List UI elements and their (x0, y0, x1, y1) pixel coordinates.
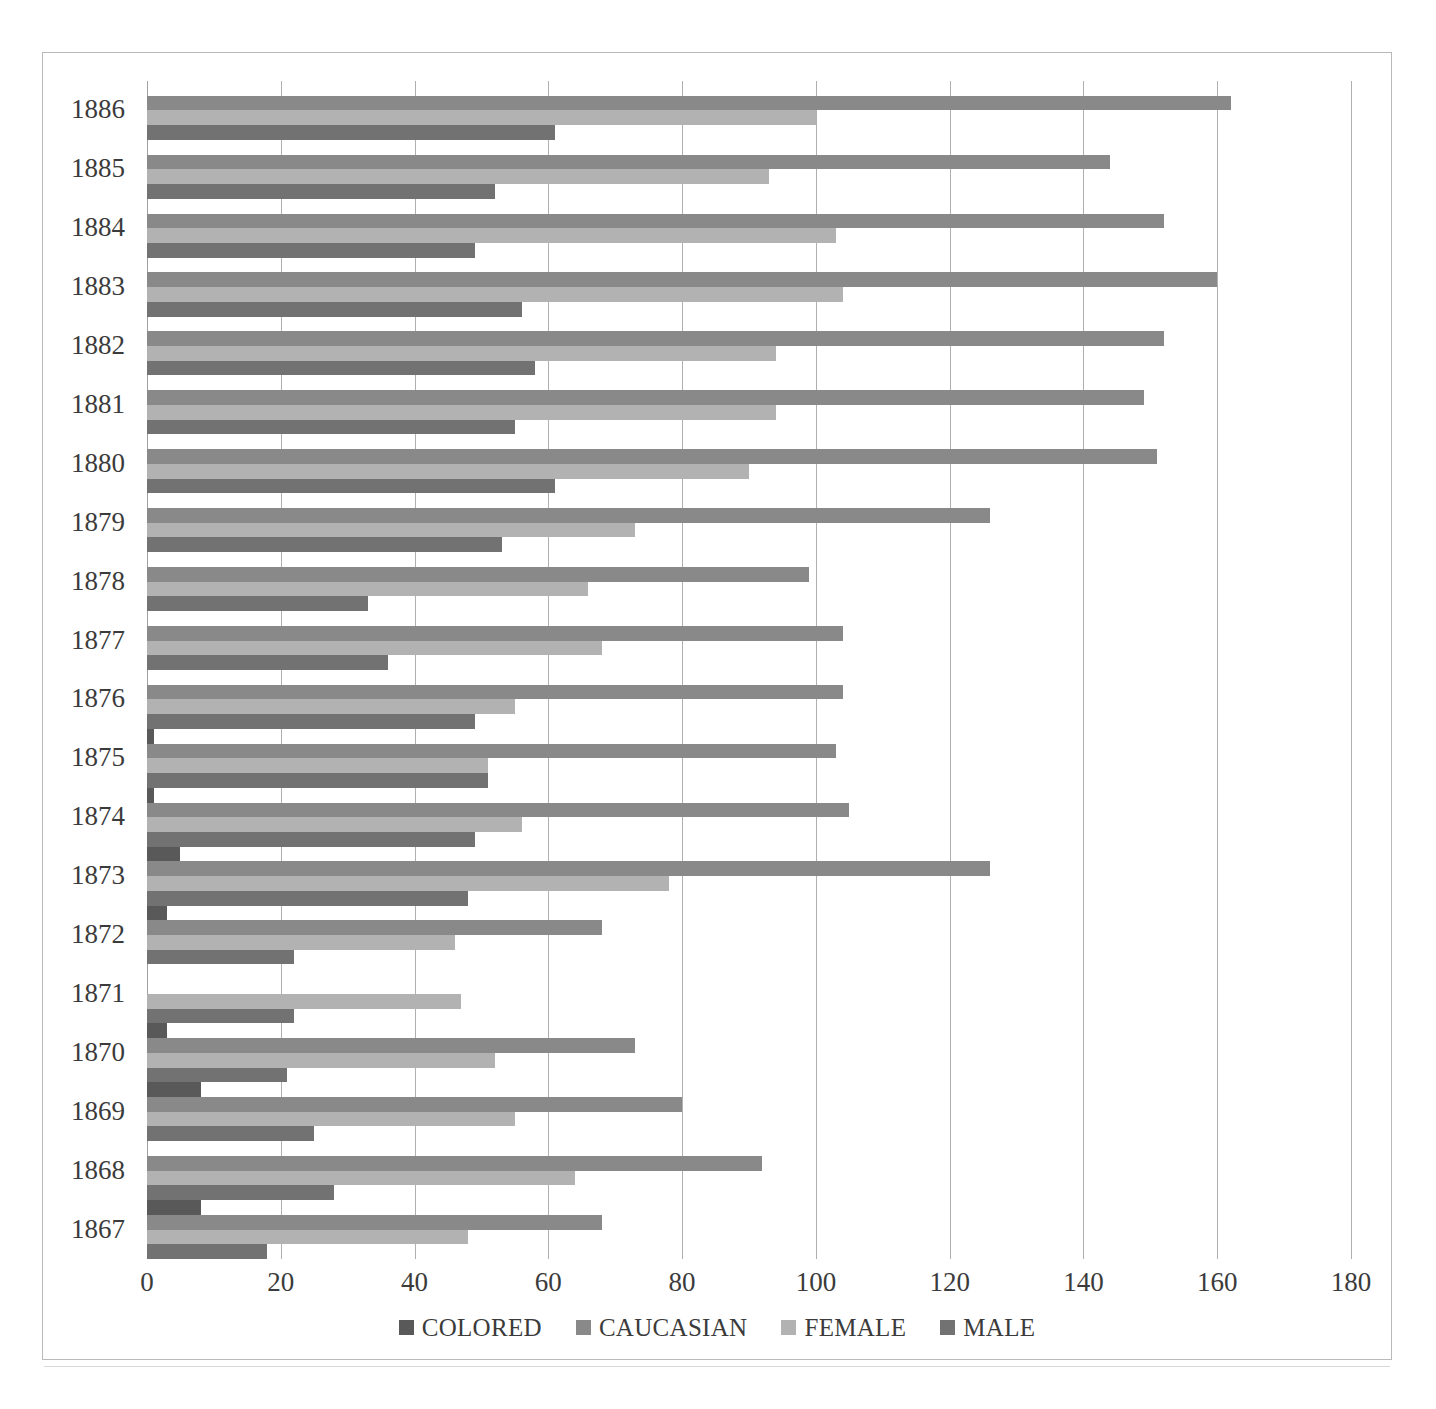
bar-caucasian-1879[interactable] (147, 508, 990, 523)
legend-label: COLORED (422, 1315, 542, 1340)
bar-female-1886[interactable] (147, 110, 816, 125)
bar-caucasian-1867[interactable] (147, 1215, 602, 1230)
bar-caucasian-1886[interactable] (147, 96, 1231, 111)
bar-row (147, 979, 1355, 994)
bar-row (147, 714, 1355, 729)
bar-row (147, 552, 1355, 567)
bar-male-1886[interactable] (147, 125, 555, 140)
bar-row (147, 965, 1355, 980)
bar-row (147, 331, 1355, 346)
bar-row (147, 169, 1355, 184)
bar-caucasian-1875[interactable] (147, 744, 836, 759)
bar-female-1876[interactable] (147, 699, 515, 714)
bar-caucasian-1877[interactable] (147, 626, 843, 641)
bar-row (147, 390, 1355, 405)
bar-caucasian-1880[interactable] (147, 449, 1157, 464)
bar-female-1878[interactable] (147, 582, 588, 597)
bar-male-1876[interactable] (147, 714, 475, 729)
bar-row (147, 685, 1355, 700)
bar-group-1868 (147, 1141, 1355, 1200)
bar-male-1882[interactable] (147, 361, 535, 376)
bar-female-1875[interactable] (147, 758, 488, 773)
bar-row (147, 729, 1355, 744)
bar-caucasian-1882[interactable] (147, 331, 1164, 346)
bar-female-1881[interactable] (147, 405, 776, 420)
bar-female-1883[interactable] (147, 287, 843, 302)
bar-row (147, 508, 1355, 523)
bar-caucasian-1885[interactable] (147, 155, 1110, 170)
bar-male-1872[interactable] (147, 950, 294, 965)
bar-caucasian-1869[interactable] (147, 1097, 682, 1112)
bar-row (147, 1068, 1355, 1083)
bar-female-1885[interactable] (147, 169, 769, 184)
bar-caucasian-1872[interactable] (147, 920, 602, 935)
bar-male-1870[interactable] (147, 1068, 287, 1083)
bar-caucasian-1868[interactable] (147, 1156, 762, 1171)
chart-legend: COLOREDCAUCASIANFEMALEMALE (43, 1315, 1391, 1340)
bar-group-1881 (147, 376, 1355, 435)
bar-male-1884[interactable] (147, 243, 475, 258)
bar-row (147, 96, 1355, 111)
bar-colored-1869[interactable] (147, 1082, 201, 1097)
bar-female-1869[interactable] (147, 1112, 515, 1127)
bar-group-1877 (147, 611, 1355, 670)
bar-male-1878[interactable] (147, 596, 368, 611)
bar-male-1885[interactable] (147, 184, 495, 199)
bar-female-1882[interactable] (147, 346, 776, 361)
bar-male-1880[interactable] (147, 479, 555, 494)
bar-male-1883[interactable] (147, 302, 522, 317)
bar-row (147, 199, 1355, 214)
bar-caucasian-1870[interactable] (147, 1038, 635, 1053)
bar-female-1873[interactable] (147, 876, 669, 891)
bar-male-1867[interactable] (147, 1244, 267, 1259)
bar-female-1880[interactable] (147, 464, 749, 479)
bar-row (147, 891, 1355, 906)
bar-row (147, 847, 1355, 862)
bar-caucasian-1884[interactable] (147, 214, 1164, 229)
bar-female-1872[interactable] (147, 935, 455, 950)
legend-item-colored[interactable]: COLORED (399, 1315, 542, 1340)
bar-colored-1870[interactable] (147, 1023, 167, 1038)
bar-male-1868[interactable] (147, 1185, 334, 1200)
bar-row (147, 523, 1355, 538)
bar-male-1873[interactable] (147, 891, 468, 906)
bar-male-1877[interactable] (147, 655, 388, 670)
bar-female-1867[interactable] (147, 1230, 468, 1245)
bar-female-1877[interactable] (147, 641, 602, 656)
bar-female-1868[interactable] (147, 1171, 575, 1186)
y-axis-label-1886: 1886 (71, 96, 125, 123)
bar-female-1879[interactable] (147, 523, 635, 538)
bar-row (147, 611, 1355, 626)
bar-female-1870[interactable] (147, 1053, 495, 1068)
bar-caucasian-1874[interactable] (147, 803, 849, 818)
bar-female-1884[interactable] (147, 228, 836, 243)
bar-row (147, 699, 1355, 714)
x-axis-tick-0: 0 (140, 1269, 154, 1296)
bar-male-1871[interactable] (147, 1009, 294, 1024)
bar-female-1871[interactable] (147, 994, 461, 1009)
bar-male-1869[interactable] (147, 1126, 314, 1141)
bar-colored-1875[interactable] (147, 729, 154, 744)
bar-female-1874[interactable] (147, 817, 522, 832)
bar-caucasian-1881[interactable] (147, 390, 1144, 405)
bar-caucasian-1873[interactable] (147, 861, 990, 876)
bar-male-1879[interactable] (147, 537, 502, 552)
bar-caucasian-1878[interactable] (147, 567, 809, 582)
bar-colored-1872[interactable] (147, 906, 167, 921)
bar-colored-1873[interactable] (147, 847, 180, 862)
bar-colored-1874[interactable] (147, 788, 154, 803)
legend-item-female[interactable]: FEMALE (781, 1315, 906, 1340)
bar-row (147, 81, 1355, 96)
bar-caucasian-1883[interactable] (147, 272, 1217, 287)
legend-item-caucasian[interactable]: CAUCASIAN (576, 1315, 748, 1340)
bar-row (147, 302, 1355, 317)
bar-male-1875[interactable] (147, 773, 488, 788)
bar-male-1881[interactable] (147, 420, 515, 435)
bar-row (147, 361, 1355, 376)
legend-item-male[interactable]: MALE (940, 1315, 1035, 1340)
y-axis-category-labels: 1886188518841883188218811880187918781877… (43, 81, 147, 1259)
bar-caucasian-1876[interactable] (147, 685, 843, 700)
bar-male-1874[interactable] (147, 832, 475, 847)
bar-colored-1867[interactable] (147, 1200, 201, 1215)
x-axis-tick-40: 40 (401, 1269, 428, 1296)
